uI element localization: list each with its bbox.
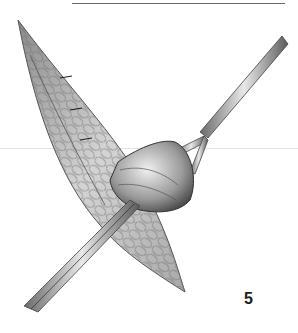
surgical-illustration xyxy=(0,0,298,333)
forceps-icon xyxy=(24,200,140,312)
figure-number: 5 xyxy=(244,290,253,308)
retractor-icon xyxy=(176,36,288,174)
